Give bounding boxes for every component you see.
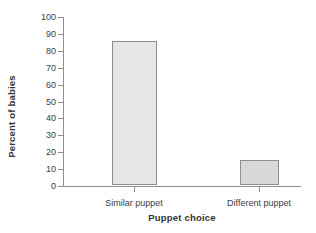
y-axis-tick-label: 10 — [46, 164, 56, 174]
x-axis-title: Puppet choice — [63, 212, 301, 223]
x-axis-tick-label: Similar puppet — [105, 198, 163, 208]
y-axis-tick-label: 80 — [46, 46, 56, 56]
x-axis-tick-mark — [134, 187, 135, 192]
x-axis-tick-mark — [259, 187, 260, 192]
y-axis-title: Percent of babies — [0, 0, 22, 233]
y-axis-tick-mark — [58, 51, 63, 52]
bar — [112, 41, 157, 185]
bar-chart: Percent of babies 0102030405060708090100… — [0, 0, 316, 233]
y-axis-tick-mark — [58, 169, 63, 170]
y-axis-tick-mark — [58, 68, 63, 69]
y-axis-tick-label: 70 — [46, 63, 56, 73]
y-axis-tick-label: 20 — [46, 147, 56, 157]
y-axis-tick-mark — [58, 34, 63, 35]
y-axis-tick-mark — [58, 135, 63, 136]
y-axis-tick-mark — [58, 186, 63, 187]
bar — [240, 160, 279, 185]
y-axis-tick-label: 90 — [46, 29, 56, 39]
y-axis-tick-label: 60 — [46, 80, 56, 90]
y-axis-tick-mark — [58, 118, 63, 119]
plot-area: 0102030405060708090100 Similar puppetDif… — [63, 17, 301, 186]
y-axis-tick-mark — [58, 102, 63, 103]
y-axis-tick-label: 50 — [46, 97, 56, 107]
y-axis-tick-mark — [58, 85, 63, 86]
x-axis-tick-label: Different puppet — [227, 198, 291, 208]
y-axis-tick-label: 100 — [41, 12, 56, 22]
y-axis-tick-label: 30 — [46, 130, 56, 140]
y-axis-tick-label: 40 — [46, 113, 56, 123]
y-axis-line — [63, 17, 64, 187]
y-axis-tick-mark — [58, 17, 63, 18]
y-axis-tick-mark — [58, 152, 63, 153]
x-axis-line — [63, 186, 301, 187]
y-axis-tick-label: 0 — [51, 181, 56, 191]
